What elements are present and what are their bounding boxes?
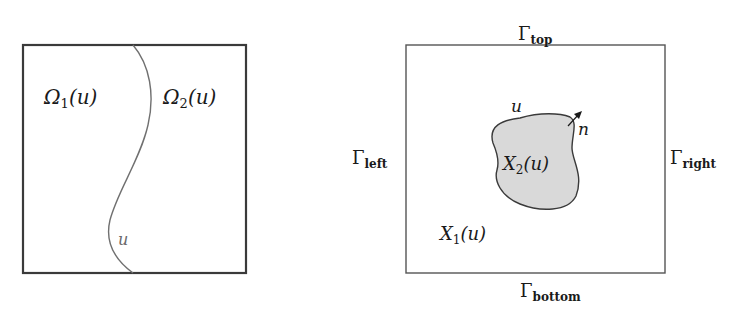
gamma-bottom-label: Γbottom [520,280,581,304]
interface-curve [109,45,151,273]
left-domain-box [23,45,246,273]
diagram-canvas: Ω1(u) Ω2(u) u Γtop Γbottom Γleft Γright … [0,0,739,311]
omega2-label: Ω2(u) [162,85,216,111]
x1-label: X1(u) [438,223,486,247]
gamma-right-label: Γright [670,147,716,171]
gamma-left-label: Γleft [352,147,388,171]
inclusion-u-label: u [511,96,522,116]
right-figure: Γtop Γbottom Γleft Γright n u X2(u) X1(u… [352,23,716,304]
normal-n-label: n [578,119,589,139]
left-figure: Ω1(u) Ω2(u) u [23,45,246,273]
gamma-top-label: Γtop [518,23,552,47]
omega1-label: Ω1(u) [43,85,97,111]
interface-u-label: u [118,230,128,249]
x2-label: X2(u) [501,153,549,177]
